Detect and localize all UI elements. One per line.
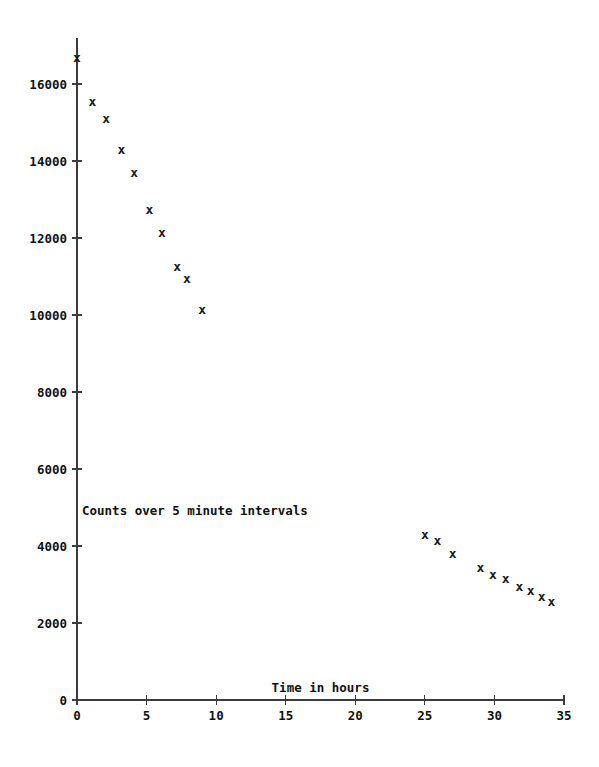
x-tick-label-25: 25 [417,708,432,723]
data-point: x [433,533,441,548]
plot-annotation-label: Counts over 5 minute intervals [82,503,308,518]
x-tick-label-30: 30 [487,708,502,723]
y-tick-label-0: 0 [59,693,67,708]
data-point: x [477,560,485,575]
data-point: x [102,111,110,126]
y-tick-label-8000: 8000 [37,385,67,400]
y-tick-label-12000: 12000 [29,231,67,246]
y-tick-label-16000: 16000 [29,77,67,92]
data-point: x [516,579,524,594]
data-points-group: xxxxxxxxxxxxxxxxxxxx [73,50,555,610]
scatter-plot-figure: 0200040006000800010000120001400016000051… [0,0,599,767]
data-point: x [183,271,191,286]
data-point: x [421,527,429,542]
plot-canvas: 0200040006000800010000120001400016000051… [0,0,599,767]
data-point: x [527,583,535,598]
x-tick-label-5: 5 [143,708,151,723]
data-point: x [145,202,153,217]
data-point: x [548,594,556,609]
y-tick-label-2000: 2000 [37,616,67,631]
tick-labels-group: 0200040006000800010000120001400016000051… [29,77,571,724]
x-tick-label-35: 35 [556,708,571,723]
x-tick-label-15: 15 [278,708,293,723]
y-tick-label-10000: 10000 [29,308,67,323]
data-point: x [173,259,181,274]
x-tick-label-10: 10 [209,708,224,723]
data-point: x [130,165,138,180]
x-axis-title: Time in hours [272,680,370,695]
y-tick-label-6000: 6000 [37,462,67,477]
ticks-group [72,84,564,705]
axes-group [77,38,564,700]
data-point: x [502,571,510,586]
data-point: x [538,589,546,604]
data-point: x [118,142,126,157]
x-tick-label-0: 0 [73,708,81,723]
data-point: x [73,50,81,65]
y-tick-label-14000: 14000 [29,154,67,169]
data-point: x [158,225,166,240]
x-tick-label-20: 20 [348,708,363,723]
data-point: x [449,546,457,561]
data-point: x [489,567,497,582]
data-point: x [198,302,206,317]
y-tick-label-4000: 4000 [37,539,67,554]
data-point: x [88,94,96,109]
